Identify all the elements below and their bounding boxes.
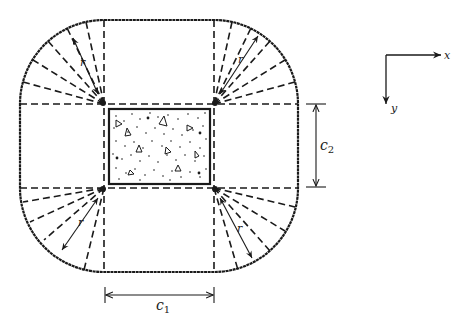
radius-label-bottom-right: r <box>237 222 243 235</box>
radial-lines-bottom-left <box>23 188 104 270</box>
c1-label: c1 <box>156 297 170 315</box>
radial-lines-top-right <box>214 22 295 104</box>
shear-perimeter-diagram: r r r r <box>0 0 470 318</box>
y-axis-label: y <box>390 102 398 115</box>
radius-label-top-right: r <box>238 53 244 66</box>
x-axis-label: x <box>444 49 451 62</box>
axes-indicator <box>386 55 441 104</box>
c2-label: c2 <box>320 137 334 155</box>
column-section <box>109 109 210 184</box>
radius-label-top-left: r <box>80 56 86 69</box>
radial-lines-bottom-right <box>214 188 295 270</box>
radius-label-bottom-left: r <box>78 216 84 229</box>
radial-lines-top-left <box>23 22 104 104</box>
